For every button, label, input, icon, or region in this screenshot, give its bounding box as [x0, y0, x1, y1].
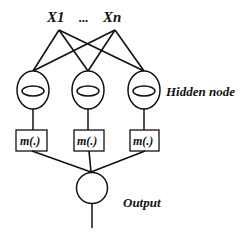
output-label: Output — [123, 195, 161, 210]
network-diagram: X1 ... Xn Hidden node m( — [0, 0, 250, 234]
transform-box-3: m(.) — [133, 134, 153, 148]
transform-box-2: m(.) — [77, 134, 97, 148]
input-hidden-connections — [33, 30, 144, 71]
hidden-node-3 — [128, 71, 160, 130]
hidden-layer — [17, 71, 160, 130]
hidden-node-1 — [17, 71, 49, 130]
input-ellipsis: ... — [79, 10, 89, 25]
hidden-output-connections — [32, 151, 145, 172]
input-label-xn: Xn — [102, 9, 121, 25]
input-label-x1: X1 — [46, 9, 65, 25]
hidden-node-label: Hidden node — [165, 84, 235, 99]
output-node — [77, 173, 108, 229]
transform-box-1: m(.) — [20, 134, 40, 148]
hidden-node-2 — [72, 71, 104, 130]
